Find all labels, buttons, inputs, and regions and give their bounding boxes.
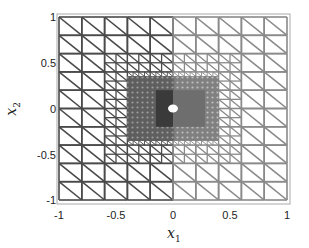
mesh-edge [219, 17, 242, 35]
mesh-edge [59, 54, 82, 72]
mesh-edge [150, 17, 173, 35]
mesh-edge [230, 145, 241, 154]
mesh-edge [59, 182, 82, 200]
mesh-edge [241, 127, 264, 145]
mesh-edge [179, 141, 185, 146]
mesh-edge [59, 72, 82, 90]
mesh-edge [196, 163, 219, 181]
mesh-edge [116, 118, 127, 127]
mesh-edge [207, 63, 218, 72]
mesh-edge [139, 63, 150, 72]
mesh-edge [264, 163, 287, 181]
mesh-edge [82, 182, 105, 200]
mesh-edge [116, 54, 127, 63]
mesh-edge [139, 141, 145, 146]
mesh-edge [219, 109, 230, 118]
ytick-label: -1 [46, 195, 56, 206]
mesh-edge [241, 109, 264, 127]
mesh-edge [116, 136, 127, 145]
mesh-edge [127, 154, 138, 163]
mesh-edge [219, 154, 230, 163]
mesh-edge [105, 72, 116, 81]
mesh-edge [173, 17, 196, 35]
mesh-edge [264, 72, 287, 90]
mesh-edge [230, 90, 241, 99]
mesh-edge [202, 72, 208, 77]
x-axis-label-main: x [167, 225, 175, 241]
mesh-edge [150, 182, 173, 200]
mesh-edge [207, 141, 213, 146]
mesh-edge [156, 141, 162, 146]
mesh-edge [207, 145, 218, 154]
mesh-edge [82, 17, 105, 35]
mesh-edge [127, 72, 133, 77]
mesh-edge [59, 109, 82, 127]
mesh-edge [173, 54, 184, 63]
mesh-edge [156, 72, 162, 77]
mesh-edge [162, 141, 168, 146]
xtick-label: -1 [54, 210, 64, 221]
mesh-edge [230, 63, 241, 72]
mesh-plot [0, 0, 309, 248]
mesh-edge [230, 54, 241, 63]
mesh-edge [59, 127, 82, 145]
mesh-edge [105, 99, 116, 108]
mesh-edge [82, 72, 105, 90]
mesh-edge [167, 72, 173, 77]
mesh-edge [173, 72, 179, 77]
mesh-edge [196, 54, 207, 63]
mesh-edge [167, 141, 173, 146]
mesh-edge [116, 145, 127, 154]
mesh-edge [127, 145, 138, 154]
mesh-edge [196, 35, 219, 53]
mesh-edge [264, 109, 287, 127]
mesh-edge [116, 109, 127, 118]
mesh-edge [190, 72, 196, 77]
mesh-edge [127, 141, 133, 146]
mesh-edge [219, 54, 230, 63]
mesh-edge [139, 145, 150, 154]
hole-marker [168, 105, 178, 113]
mesh-edge [82, 163, 105, 181]
mesh-edge [184, 54, 195, 63]
mesh-edge [105, 35, 128, 53]
mesh-edge [219, 63, 230, 72]
mesh-edge [59, 145, 82, 163]
mesh-edge [173, 163, 196, 181]
mesh-edge [116, 90, 127, 99]
mesh-edge [219, 182, 242, 200]
mesh-edge [219, 72, 230, 81]
mesh-edge [213, 72, 219, 77]
mesh-edge [196, 141, 202, 146]
mesh-edge [190, 141, 196, 146]
y-axis-label-main: x [3, 108, 19, 116]
mesh-edge [264, 182, 287, 200]
mesh-edge [82, 109, 105, 127]
mesh-edge [230, 81, 241, 90]
mesh-edge [264, 127, 287, 145]
mesh-edge [230, 118, 241, 127]
mesh-edge [139, 54, 150, 63]
mesh-edge [150, 72, 156, 77]
mesh-edge [196, 63, 207, 72]
mesh-edge [184, 141, 190, 146]
mesh-edge [162, 54, 173, 63]
mesh-edge [264, 54, 287, 72]
mesh-edge [219, 127, 230, 136]
mesh-edge [219, 99, 230, 108]
mesh-edge [59, 90, 82, 108]
mesh-edge [196, 182, 219, 200]
mesh-edge [162, 72, 168, 77]
mesh-edge [116, 154, 127, 163]
mesh-edge [162, 63, 173, 72]
mesh-edge [219, 35, 242, 53]
mesh-edge [145, 72, 151, 77]
mesh-edge [184, 154, 195, 163]
mesh-edge [59, 163, 82, 181]
mesh-edge [241, 72, 264, 90]
mesh-edge [59, 35, 82, 53]
mesh-edge [219, 163, 242, 181]
mesh-edge [230, 72, 241, 81]
xtick-label: 1 [284, 210, 290, 221]
mesh-edge [230, 99, 241, 108]
